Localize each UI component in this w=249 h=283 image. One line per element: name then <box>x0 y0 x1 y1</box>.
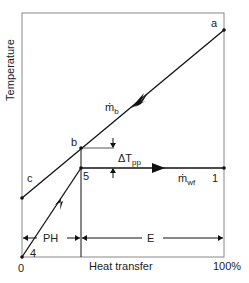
hot-stream-line <box>22 30 224 198</box>
ph-label: PH <box>43 232 58 244</box>
y-axis-label: Temperature <box>4 39 16 101</box>
label-b: b <box>71 136 77 148</box>
ph-left-arrow-icon <box>23 235 28 241</box>
point-c <box>20 196 24 200</box>
preheat-arrow-icon <box>55 198 63 210</box>
hot-stream-arrowhead-icon <box>131 93 146 108</box>
label-5: 5 <box>83 170 89 182</box>
plot-frame <box>22 13 224 257</box>
t-q-diagram: Temperature a b c 5 1 4 ṁb ṁwf ΔTpp PH E… <box>0 0 249 283</box>
point-4 <box>20 255 24 259</box>
evap-arrow-icon <box>152 163 165 173</box>
pinch-label: ΔTpp <box>118 152 142 167</box>
x-max-label: 100% <box>213 260 241 272</box>
x-axis-label: Heat transfer <box>89 260 153 272</box>
point-b <box>79 146 83 150</box>
label-1: 1 <box>212 172 218 184</box>
e-left-arrow-icon <box>82 235 87 241</box>
e-label: E <box>147 232 154 244</box>
point-a <box>222 28 226 32</box>
hot-stream-label: ṁb <box>105 101 119 116</box>
cold-stream-label: ṁwf <box>178 172 196 187</box>
x-min-label: 0 <box>18 262 24 274</box>
label-a: a <box>211 17 218 29</box>
point-1 <box>222 166 226 170</box>
label-c: c <box>27 172 33 184</box>
pinch-top-arrow-icon <box>110 143 116 148</box>
e-right-arrow-icon <box>218 235 223 241</box>
label-4: 4 <box>30 247 36 259</box>
ph-right-arrow-icon <box>75 235 80 241</box>
